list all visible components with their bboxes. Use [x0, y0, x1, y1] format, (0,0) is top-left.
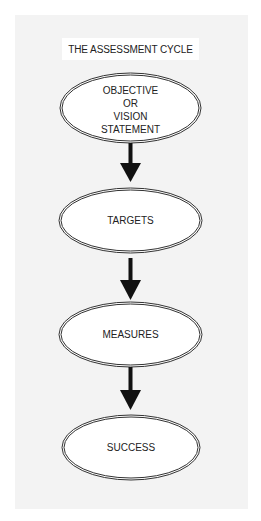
node-measures-label: MEASURES	[102, 329, 158, 340]
arrow-down-icon	[120, 258, 141, 300]
node-objective-line-3: VISION	[114, 111, 148, 122]
arrow-down-icon	[120, 143, 141, 182]
node-success: SUCCESS	[62, 415, 200, 480]
node-success-label: SUCCESS	[107, 442, 156, 453]
node-objective: OBJECTIVE OR VISION STATEMENT	[60, 73, 201, 143]
arrow-down-icon	[120, 367, 141, 410]
node-objective-line-2: OR	[123, 98, 138, 109]
node-objective-line-1: OBJECTIVE	[103, 85, 159, 96]
node-targets-label: TARGETS	[107, 215, 154, 226]
assessment-cycle-diagram: OBJECTIVE OR VISION STATEMENT TARGETS ME…	[0, 0, 261, 521]
node-measures: MEASURES	[59, 302, 202, 367]
node-objective-line-4: STATEMENT	[101, 124, 160, 135]
node-targets: TARGETS	[59, 188, 202, 253]
